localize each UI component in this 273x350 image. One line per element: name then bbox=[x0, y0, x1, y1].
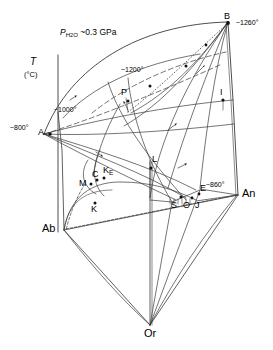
vertex-label-Ab: Ab bbox=[42, 223, 55, 234]
vertex-label-An: An bbox=[242, 188, 255, 199]
marker-aux-1 bbox=[185, 65, 188, 68]
marker-B bbox=[226, 21, 230, 25]
point-label-KE-sub: E bbox=[109, 169, 113, 176]
isotherm-1000-curve bbox=[63, 54, 200, 118]
marker-O bbox=[180, 196, 183, 199]
isotherm-label-860: ~860° bbox=[206, 181, 225, 188]
point-label-O: O bbox=[183, 201, 190, 210]
marker-aux-2 bbox=[205, 44, 208, 47]
pressure-annotation: PH2O ~0.3 GPa bbox=[60, 28, 116, 38]
point-label-M: M bbox=[79, 179, 87, 188]
marker-P bbox=[127, 100, 130, 103]
a-convergent-rays bbox=[44, 134, 196, 200]
pressure-value: ~0.3 GPa bbox=[80, 27, 116, 37]
diagram-canvas bbox=[0, 0, 273, 350]
marker-L bbox=[150, 167, 153, 170]
point-label-B: B bbox=[224, 12, 230, 21]
marker-KE bbox=[103, 177, 106, 180]
solidus-shell-left-2 bbox=[64, 190, 112, 230]
point-label-J: J bbox=[195, 201, 200, 210]
solvus-dashed-limb bbox=[66, 184, 85, 230]
point-label-A: A bbox=[38, 128, 44, 137]
liquidus-crest-AB bbox=[44, 22, 228, 134]
point-label-K: K bbox=[91, 205, 97, 214]
base-triangle bbox=[64, 195, 238, 325]
isotherm-label-1260: ~1260° bbox=[236, 19, 258, 26]
base-tielines bbox=[150, 189, 238, 202]
marker-P-upper bbox=[149, 85, 152, 88]
temperature-axis-label: T bbox=[30, 57, 36, 67]
marker-M bbox=[90, 183, 93, 186]
isotherm-label-800: ~800° bbox=[10, 124, 29, 131]
point-label-I: I bbox=[220, 88, 223, 97]
isotherm-label-1000: ~1000° bbox=[54, 106, 76, 113]
point-label-C: C bbox=[92, 170, 99, 179]
point-label-KE: KE bbox=[103, 166, 113, 176]
phase-diagram-figure: PH2O ~0.3 GPa T (°C) Ab An Or A B C KE M… bbox=[0, 0, 273, 350]
marker-E bbox=[198, 193, 201, 196]
marker-J bbox=[191, 197, 194, 200]
isotherm-label-1200: ~1200° bbox=[121, 66, 143, 73]
point-label-S: S bbox=[171, 201, 177, 210]
point-label-L: L bbox=[152, 155, 157, 164]
isotherm-1200-curve bbox=[92, 52, 226, 113]
point-label-P: P bbox=[121, 88, 127, 97]
vertex-label-Or: Or bbox=[144, 328, 156, 339]
b-convergent-rays bbox=[124, 22, 228, 198]
temperature-axis-unit: (°C) bbox=[24, 71, 37, 79]
prism-vertical-edges bbox=[58, 22, 238, 325]
marker-A bbox=[48, 132, 51, 135]
marker-I bbox=[221, 98, 224, 101]
